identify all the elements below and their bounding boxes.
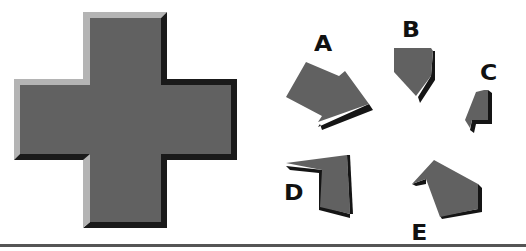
cross-shape	[14, 12, 237, 228]
piece-c[interactable]	[465, 90, 492, 133]
piece-e[interactable]	[412, 160, 482, 219]
cross-highlight-lower	[83, 154, 90, 228]
piece-e-face	[412, 160, 478, 217]
option-label-b: B	[402, 20, 420, 41]
piece-b[interactable]	[394, 48, 435, 103]
option-label-d: D	[284, 183, 304, 204]
option-label-e: E	[411, 223, 427, 244]
cross-shadow-left-arm	[14, 154, 90, 160]
piece-a[interactable]	[286, 62, 373, 130]
puzzle-figure: A B C D E	[0, 0, 526, 251]
cross-face	[20, 18, 231, 222]
option-label-a: A	[314, 34, 332, 55]
option-label-c: C	[480, 63, 497, 84]
bottom-divider	[0, 244, 526, 247]
